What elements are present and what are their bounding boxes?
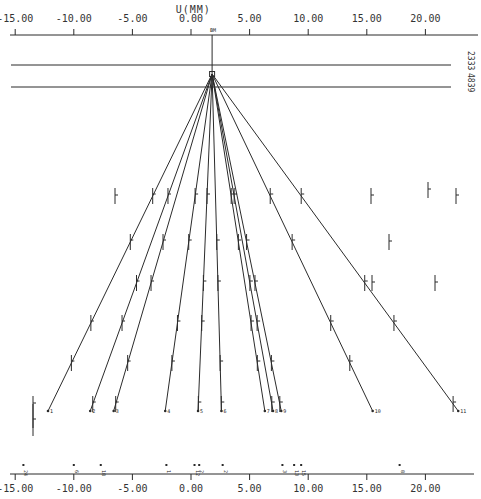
- track-label: 11: [460, 408, 466, 414]
- hit-marks: [33, 182, 459, 436]
- bottom-marker-label: 18: [101, 470, 107, 476]
- bottom-axis: -15.00-10.00-5.000.005.0010.0015.0020.00: [0, 474, 474, 494]
- bottom-marker: [22, 464, 24, 466]
- track-label: 6: [223, 408, 226, 414]
- bottom-marker: [165, 464, 167, 466]
- x-tick-label: 15.00: [352, 483, 382, 494]
- bottom-marker: [222, 464, 224, 466]
- x-tick-label: 0.00: [179, 483, 203, 494]
- track: [212, 74, 273, 411]
- x-tick-label: -15.00: [0, 13, 33, 24]
- x-tick-label: 10.00: [293, 483, 323, 494]
- bottom-marker: [293, 464, 295, 466]
- bottom-marker-label: 6: [74, 470, 80, 473]
- bottom-marker-label: 1: [166, 470, 172, 473]
- vertex-label: BM: [210, 27, 216, 33]
- bottom-marker-label: 2: [199, 470, 205, 473]
- track-label: 10: [375, 408, 381, 414]
- x-axis-title: U(MM): [176, 4, 211, 15]
- x-tick-label: 10.00: [293, 13, 323, 24]
- bottom-marker: [73, 464, 75, 466]
- tracks: 1234567891011: [47, 74, 467, 414]
- x-tick-label: -10.00: [56, 483, 92, 494]
- track: [90, 74, 212, 411]
- x-tick-label: 15.00: [352, 13, 382, 24]
- x-tick-label: 5.00: [238, 483, 262, 494]
- bottom-marker-label: 8: [400, 470, 406, 473]
- x-tick-label: -15.00: [0, 483, 33, 494]
- track-label: 9: [283, 408, 286, 414]
- x-tick-label: 20.00: [410, 483, 440, 494]
- track-label: 1: [50, 408, 53, 414]
- track-label: 4: [167, 408, 170, 414]
- track-label: 8: [275, 408, 278, 414]
- x-tick-label: -10.00: [56, 13, 92, 24]
- bottom-marker: [399, 464, 401, 466]
- top-axis: -15.00-10.00-5.000.005.0010.0015.0020.00…: [0, 4, 478, 35]
- reference-line-label: 2333: [466, 51, 475, 70]
- track-label: 7: [267, 408, 270, 414]
- bottom-marker: [194, 464, 196, 466]
- x-tick-label: 5.00: [238, 13, 262, 24]
- reference-line-label: 4839: [466, 73, 475, 92]
- bottom-marker: [300, 464, 302, 466]
- x-tick-label: -5.00: [117, 483, 147, 494]
- bottom-marker-label: 15: [301, 470, 307, 476]
- bottom-marker: [281, 464, 283, 466]
- track: [212, 74, 458, 411]
- bottom-marker-label: 24: [23, 470, 29, 476]
- x-tick-label: 20.00: [410, 13, 440, 24]
- track-plot: -15.00-10.00-5.000.005.0010.0015.0020.00…: [0, 0, 481, 499]
- bottom-marker-label: 3: [282, 470, 288, 473]
- track-label: 5: [200, 408, 203, 414]
- bottom-marker: [100, 464, 102, 466]
- bottom-marker: [198, 464, 200, 466]
- bottom-marker-label: 13: [294, 470, 300, 476]
- bottom-marker-label: 2: [223, 470, 229, 473]
- x-tick-label: -5.00: [117, 13, 147, 24]
- reference-lines: 23334839: [11, 35, 475, 92]
